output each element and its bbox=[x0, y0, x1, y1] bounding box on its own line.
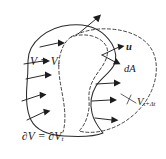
label-area-element-A: A bbox=[129, 63, 136, 74]
velocity-arrow-left-5 bbox=[27, 109, 51, 120]
label-volume-current: V = Vt bbox=[30, 56, 60, 68]
velocity-arrow-left-3 bbox=[40, 40, 65, 47]
leader-volume-next bbox=[121, 94, 136, 104]
label-area-element-dA: dA bbox=[124, 64, 136, 75]
label-boundary: ∂V = ∂Vt bbox=[22, 131, 63, 143]
label-volume-next: Vt+Δt bbox=[137, 97, 155, 108]
velocity-arrow-right-2 bbox=[92, 97, 117, 104]
label-volume-current-subscript: t bbox=[58, 60, 60, 68]
velocity-arrow-left-2 bbox=[26, 72, 52, 79]
velocity-arrow-right-3 bbox=[95, 117, 119, 124]
figure-canvas: V = Vt ∂V = ∂Vt u dA Vt+Δt bbox=[0, 0, 166, 159]
label-volume-next-subscript: t+Δt bbox=[144, 100, 156, 107]
velocity-arrow-top bbox=[78, 15, 101, 35]
label-boundary-subscript: t bbox=[61, 135, 63, 143]
label-velocity-u: u bbox=[126, 42, 132, 53]
label-velocity-text: u bbox=[126, 41, 132, 52]
velocity-arrow-left-4 bbox=[22, 92, 47, 101]
material-volume-boundary-at-t-plus-dt bbox=[71, 29, 156, 133]
swept-region-inner-edge bbox=[59, 37, 71, 132]
label-volume-current-text: V = V bbox=[30, 55, 58, 67]
area-element-arrow-dA bbox=[102, 55, 121, 65]
label-boundary-text: ∂V = ∂V bbox=[22, 130, 61, 142]
